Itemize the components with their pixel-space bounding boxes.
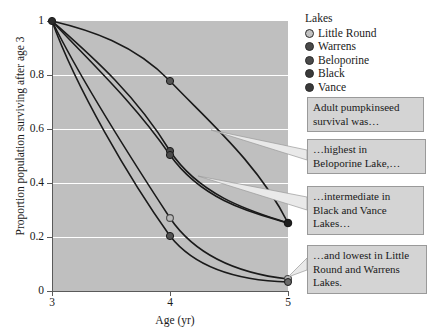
figure-survivorship-chart: 1 0.8 0.6 0.4 0.2 0 3 4 5 Proportion pop…: [0, 0, 427, 336]
legend-label-little-round: Little Round: [318, 27, 376, 41]
datapoint-warrens-age5: [285, 279, 292, 286]
legend-item-vance[interactable]: Vance: [305, 81, 425, 95]
callout-lowest: …and lowest in Little Round and Warrens …: [307, 245, 427, 294]
legend-item-beloporine[interactable]: Beloporine: [305, 54, 425, 68]
datapoint-vance-age4: [166, 151, 173, 158]
legend-marker-beloporine: [305, 56, 314, 65]
leader-line-beloporine: [211, 130, 307, 160]
callout-highest-line2: Beloporine Lake,…: [313, 157, 420, 171]
callout-intermediate: …intermediate in Black and Vance Lakes…: [307, 186, 424, 235]
legend: Lakes Little Round Warrens Beloporine Bl…: [305, 12, 425, 94]
legend-marker-black: [305, 69, 314, 78]
callout-summary-line2: survival was…: [313, 115, 418, 129]
datapoint-little-round-age4: [167, 215, 174, 222]
legend-label-warrens: Warrens: [318, 40, 356, 54]
legend-item-warrens[interactable]: Warrens: [305, 40, 425, 54]
callout-intermediate-line1: …intermediate in: [313, 190, 418, 204]
legend-item-black[interactable]: Black: [305, 67, 425, 81]
datapoint-beloporine-age5: [284, 219, 292, 227]
callout-summary-line1: Adult pumpkinseed: [313, 101, 418, 115]
legend-item-little-round[interactable]: Little Round: [305, 27, 425, 41]
callout-lowest-line1: …and lowest in Little: [313, 249, 421, 263]
leader-line-little-round: [288, 258, 307, 277]
datapoint-warrens-age4: [166, 232, 173, 239]
datapoint-origin: [48, 17, 55, 24]
legend-title: Lakes: [305, 12, 425, 26]
legend-label-black: Black: [318, 67, 345, 81]
callout-intermediate-line3: Lakes…: [313, 217, 418, 231]
callout-lowest-line2: Round and Warrens: [313, 263, 421, 277]
datapoint-beloporine-age4: [166, 77, 173, 84]
callout-highest: …highest in Beloporine Lake,…: [307, 139, 426, 174]
callout-intermediate-line2: Black and Vance: [313, 204, 418, 218]
callout-lowest-line3: Lakes.: [313, 276, 421, 290]
callout-highest-line1: …highest in: [313, 143, 420, 157]
callout-leader-lines: [198, 130, 307, 277]
legend-marker-warrens: [305, 42, 314, 51]
legend-marker-vance: [305, 83, 314, 92]
callout-summary: Adult pumpkinseed survival was…: [307, 97, 424, 132]
legend-label-vance: Vance: [318, 81, 346, 95]
legend-label-beloporine: Beloporine: [318, 54, 369, 68]
legend-marker-little-round: [305, 29, 314, 38]
